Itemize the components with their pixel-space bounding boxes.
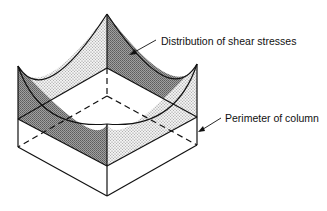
label-shear-stresses: Distribution of shear stresses xyxy=(161,35,296,47)
arrowhead-perimeter-icon xyxy=(198,126,205,132)
label-perimeter-of-column: Perimeter of column xyxy=(225,112,319,124)
shear-stress-diagram: Distribution of shear stresses Perimeter… xyxy=(0,0,327,211)
